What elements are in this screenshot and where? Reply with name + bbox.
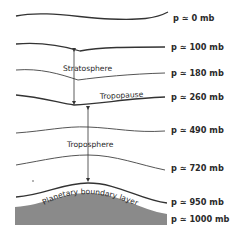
pressure-label-260: p ≃ 260 mb [171, 92, 224, 102]
dot-marker [32, 180, 34, 182]
pressure-label-100: p ≃ 100 mb [171, 42, 224, 52]
isobar-100mb [16, 43, 165, 51]
troposphere-label: Troposphere [66, 140, 114, 149]
isobar-490mb [16, 127, 165, 133]
pressure-label-490: p ≃ 490 mb [171, 125, 224, 135]
pressure-label-1000: p ≃ 1000 mb [171, 214, 230, 224]
pressure-label-0: p ≃ 0 mb [173, 13, 215, 23]
atmosphere-diagram: Stratosphere Tropopause Troposphere Plan… [0, 0, 230, 241]
stratosphere-label: Stratosphere [63, 64, 112, 73]
isobar-720mb [16, 155, 165, 170]
pressure-label-720: p ≃ 720 mb [171, 163, 224, 173]
pressure-label-180: p ≃ 180 mb [171, 68, 224, 78]
isobar-0mb [16, 12, 168, 19]
pressure-label-950: p ≃ 950 mb [171, 197, 224, 207]
